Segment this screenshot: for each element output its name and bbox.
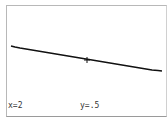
cursor-y-value: y=.5	[80, 101, 99, 110]
cursor-x-value: x=2	[8, 101, 22, 110]
trace-cursor-icon	[84, 57, 90, 63]
